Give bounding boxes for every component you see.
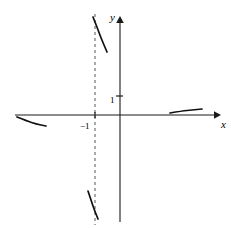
curve-branch-right-outer [170, 109, 202, 113]
graph-canvas [0, 0, 231, 229]
x-tick-label-minus-one: −1 [80, 115, 90, 133]
curve-branch-left-outer [17, 117, 46, 126]
y-axis-label: y [110, 7, 115, 25]
curve-branch-lower-near-asymptote [88, 191, 98, 219]
y-tick-label-one: 1 [110, 89, 115, 107]
x-axis-label: x [221, 114, 226, 132]
function-graph-figure: y x 1 −1 [0, 0, 231, 229]
y-axis-arrow-icon [116, 16, 124, 23]
x-axis-arrow-icon [214, 111, 221, 119]
